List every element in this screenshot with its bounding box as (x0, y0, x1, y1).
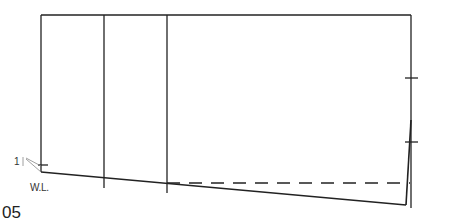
leader-line-1 (26, 158, 41, 166)
figure-number: 05 (2, 203, 21, 223)
raked-transom-line (406, 120, 411, 205)
stern-diagram (0, 0, 451, 223)
waterline-label: W.L. (30, 182, 49, 193)
angle-marker-label: 1 (14, 156, 20, 167)
sloped-keel-line (41, 172, 406, 205)
